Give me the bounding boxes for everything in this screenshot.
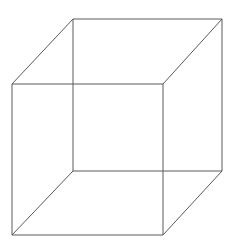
necker-cube-figure: [0, 0, 239, 245]
connector-bottom-left: [12, 171, 73, 235]
connector-top-left: [12, 19, 73, 84]
connector-top-right: [163, 19, 222, 84]
cube-edge-group: [12, 19, 222, 235]
connector-bottom-right: [163, 171, 222, 235]
cube-drawing-svg: [0, 0, 239, 245]
